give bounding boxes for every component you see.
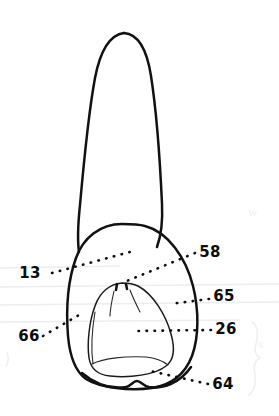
leader-line-58 — [122, 253, 195, 283]
ghost-scribble-upper: w — [248, 206, 258, 219]
groove-distal — [130, 290, 140, 312]
scan-artifacts — [0, 266, 279, 322]
annotation-58[interactable]: 58 — [122, 243, 221, 283]
scan-line — [0, 266, 120, 268]
tooth-figure: w s — [0, 0, 279, 416]
annotation-64[interactable]: 64 — [150, 371, 234, 393]
label-64[interactable]: 64 — [212, 375, 233, 393]
label-58[interactable]: 58 — [199, 243, 220, 261]
incisal-edge — [82, 367, 191, 387]
tooth-drawing — [67, 33, 197, 389]
label-66[interactable]: 66 — [18, 327, 39, 345]
root-outline-distal — [124, 33, 162, 247]
annotation-13[interactable]: 13 — [19, 252, 130, 282]
crown-outline — [67, 224, 197, 389]
leader-line-64 — [150, 371, 208, 384]
leader-line-13 — [52, 252, 130, 273]
tick-mark-right — [126, 284, 127, 289]
tooth-diagram-svg: w s — [0, 0, 279, 416]
cingulum-ridge — [92, 357, 168, 365]
fossa-inner-hairline — [92, 312, 95, 364]
scan-line — [0, 320, 240, 322]
root-outline-mesial — [78, 33, 124, 252]
tick-mark-left — [116, 284, 117, 290]
scan-line — [0, 302, 279, 305]
leader-line-66 — [43, 312, 84, 336]
label-26[interactable]: 26 — [215, 320, 236, 338]
annotation-layer: 13 58 65 26 66 64 — [18, 243, 236, 393]
lingual-fossa-outline — [88, 283, 173, 377]
ghost-stroke — [6, 352, 8, 366]
label-13[interactable]: 13 — [19, 264, 40, 282]
annotation-66[interactable]: 66 — [18, 312, 84, 345]
annotation-26[interactable]: 26 — [134, 320, 237, 338]
leader-line-26 — [134, 330, 211, 331]
label-65[interactable]: 65 — [213, 287, 234, 305]
ghost-brace — [249, 322, 260, 395]
ghost-scribble-lower: s — [258, 338, 264, 351]
